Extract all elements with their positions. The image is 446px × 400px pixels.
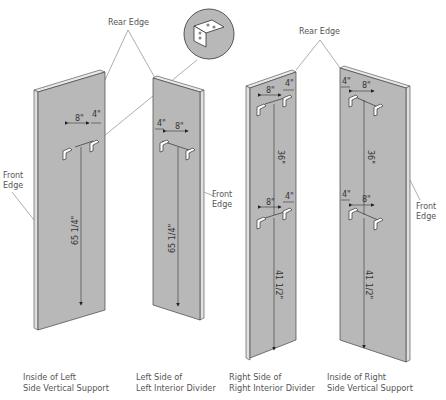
dim-low-4in: 4" [342,190,351,199]
front-edge-label-1: FrontEdge [3,171,23,190]
caption-line: Left Interior Divider [136,383,216,394]
dim-4in: 4" [92,110,101,119]
caption-line: Inside of Right [327,372,413,383]
panel-left-side-left-interior-divider: 4" 8" 65 1/4" [153,76,204,320]
dim-low-8in: 8" [362,195,371,204]
caption-panel-3: Right Side of Right Interior Divider [229,372,315,394]
rear-edge-label-left: Rear Edge [108,18,149,27]
dim-8in: 8" [175,122,184,131]
dim-height: 41 1/2" [274,270,283,299]
dim-top-4in: 4" [342,77,351,86]
panel-inside-left-side-vertical-support: 8" 4" 65 1/4" [34,70,105,330]
front-edge-leader-4 [410,180,420,200]
panel-right-side-right-interior-divider: 8" 4" 36" 8" 4" 41 1/2" [246,70,296,360]
caption-line: Inside of Left [23,372,109,383]
front-edge-label-2: FrontEdge [212,190,232,209]
caption-line: Right Interior Divider [229,383,315,394]
dim-top-8in: 8" [266,86,275,95]
caption-line: Right Side of [229,372,315,383]
caption-line: Left Side of [136,372,216,383]
rear-edge-left-leaders [105,30,155,80]
dim-height: 65 1/4" [168,224,177,253]
rear-edge-right-leaders [296,40,340,70]
front-edge-leader-1 [12,192,34,220]
dim-top-8in: 8" [362,81,371,90]
assembly-diagram: Rear Edge Rear Edge 8" 4" 65 1/4" FrontE… [0,0,446,400]
dim-top-4in: 4" [285,79,294,88]
dim-low-4in: 4" [285,192,294,201]
dim-4in: 4" [157,119,166,128]
dim-low-8in: 8" [266,198,275,207]
caption-line: Side Vertical Support [327,383,413,394]
caption-panel-2: Left Side of Left Interior Divider [136,372,216,394]
dim-36in: 36" [276,150,285,164]
dim-8in: 8" [75,114,84,123]
caption-panel-1: Inside of Left Side Vertical Support [23,372,109,394]
front-edge-label-4: FrontEdge [416,202,436,221]
dim-height: 65 1/4" [71,216,80,245]
caption-line: Side Vertical Support [23,383,109,394]
panel-inside-right-side-vertical-support: 4" 8" 36" 4" 8" 41 1/2" [340,66,410,362]
rear-edge-label-right: Rear Edge [299,27,340,36]
dim-height: 41 1/2" [364,270,373,299]
caption-panel-4: Inside of Right Side Vertical Support [327,372,413,394]
dim-36in: 36" [366,150,375,164]
